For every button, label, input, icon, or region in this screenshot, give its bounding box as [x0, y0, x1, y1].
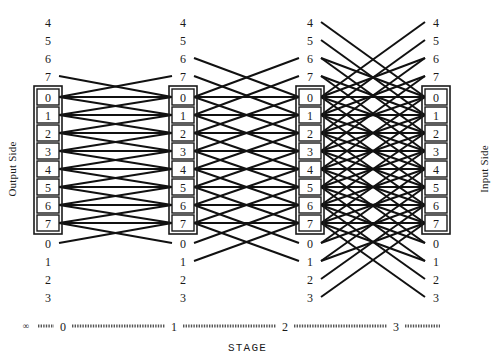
node-box-label: 3: [45, 145, 51, 159]
output-side-label: Output Side: [6, 139, 18, 199]
phantom-bottom-label: 0: [45, 237, 51, 251]
phantom-top-label: 7: [45, 70, 51, 84]
phantom-top-label: 5: [45, 34, 51, 48]
phantom-top-label: 4: [180, 16, 186, 30]
node-box-label: 5: [307, 181, 313, 195]
node-box-label: 1: [180, 109, 186, 123]
node-box-label: 0: [433, 91, 439, 105]
phantom-bottom-label: 0: [307, 237, 313, 251]
phantom-top-label: 4: [45, 16, 51, 30]
node-column-stage-3: 4567012345670123: [422, 16, 450, 305]
node-box-label: 6: [433, 199, 439, 213]
phantom-bottom-label: 0: [433, 237, 439, 251]
link-group-stage-2-to-3: [321, 22, 425, 297]
node-box-label: 1: [45, 109, 51, 123]
node-box-label: 6: [180, 199, 186, 213]
node-box-label: 7: [307, 217, 313, 231]
node-box-label: 4: [180, 163, 186, 177]
phantom-bottom-label: 2: [433, 273, 439, 287]
phantom-bottom-label: 3: [433, 291, 439, 305]
phantom-bottom-label: 1: [433, 255, 439, 269]
infinity-marker: ∞: [23, 321, 29, 331]
node-box-label: 1: [307, 109, 313, 123]
node-box-label: 5: [433, 181, 439, 195]
input-side-label: Input Side: [478, 139, 490, 199]
phantom-top-label: 6: [433, 52, 439, 66]
phantom-top-label: 5: [433, 34, 439, 48]
node-box-label: 5: [45, 181, 51, 195]
phantom-bottom-label: 3: [307, 291, 313, 305]
phantom-bottom-label: 1: [307, 255, 313, 269]
node-box-label: 2: [433, 127, 439, 141]
node-box-label: 3: [307, 145, 313, 159]
node-box-label: 0: [307, 91, 313, 105]
phantom-bottom-label: 1: [45, 255, 51, 269]
node-column-stage-0: 4567012345670123: [34, 16, 62, 305]
node-box-label: 4: [433, 163, 439, 177]
phantom-top-label: 6: [307, 52, 313, 66]
stage-tick-2: 2: [282, 320, 288, 334]
stage-tick-0: 0: [60, 320, 66, 334]
node-column-stage-2: 4567012345670123: [296, 16, 324, 305]
stage-tick-1: 1: [171, 320, 177, 334]
node-box-label: 4: [307, 163, 313, 177]
node-box-label: 4: [45, 163, 51, 177]
phantom-top-label: 6: [45, 52, 51, 66]
phantom-bottom-label: 2: [180, 273, 186, 287]
phantom-bottom-label: 3: [45, 291, 51, 305]
network-diagram: 4567012345670123456701234567012345670123…: [0, 0, 495, 364]
link-layer: [59, 22, 425, 297]
stage-axis: ∞0123: [23, 320, 440, 334]
node-box-label: 7: [433, 217, 439, 231]
link-group-stage-1-to-2: [194, 58, 299, 261]
phantom-top-label: 7: [433, 70, 439, 84]
node-box-label: 7: [45, 217, 51, 231]
phantom-bottom-label: 3: [180, 291, 186, 305]
phantom-bottom-label: 0: [180, 237, 186, 251]
phantom-top-label: 5: [307, 34, 313, 48]
phantom-top-label: 4: [433, 16, 439, 30]
stage-axis-caption: STAGE: [0, 342, 495, 354]
node-box-label: 2: [180, 127, 186, 141]
phantom-bottom-label: 2: [45, 273, 51, 287]
node-box-label: 0: [45, 91, 51, 105]
phantom-top-label: 4: [307, 16, 313, 30]
node-box-label: 2: [45, 127, 51, 141]
phantom-bottom-label: 2: [307, 273, 313, 287]
phantom-top-label: 5: [180, 34, 186, 48]
phantom-top-label: 7: [307, 70, 313, 84]
phantom-top-label: 7: [180, 70, 186, 84]
link-group-stage-0-to-1: [59, 76, 172, 243]
node-column-stage-1: 4567012345670123: [169, 16, 197, 305]
network-svg: 4567012345670123456701234567012345670123…: [0, 0, 495, 364]
node-box-label: 3: [433, 145, 439, 159]
node-box-label: 1: [433, 109, 439, 123]
node-box-label: 6: [307, 199, 313, 213]
node-box-label: 3: [180, 145, 186, 159]
node-box-label: 0: [180, 91, 186, 105]
node-box-label: 2: [307, 127, 313, 141]
node-box-label: 5: [180, 181, 186, 195]
stage-tick-3: 3: [393, 320, 399, 334]
node-box-label: 7: [180, 217, 186, 231]
phantom-top-label: 6: [180, 52, 186, 66]
node-box-label: 6: [45, 199, 51, 213]
phantom-bottom-label: 1: [180, 255, 186, 269]
